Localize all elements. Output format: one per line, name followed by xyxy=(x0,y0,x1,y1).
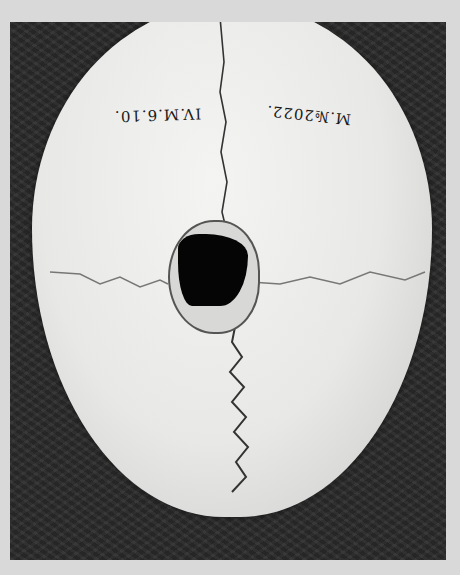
photograph: IV.M.6.10. M.№2022. xyxy=(10,22,446,560)
label-left: IV.M.6.10. xyxy=(114,104,202,125)
